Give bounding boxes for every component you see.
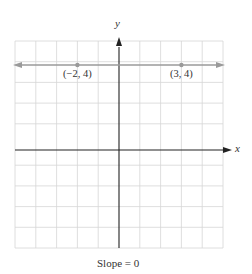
y-axis-label: y bbox=[115, 17, 120, 29]
x-axis bbox=[15, 147, 232, 153]
line-left-arrow-icon bbox=[13, 62, 22, 68]
x-axis-arrow-icon bbox=[223, 147, 232, 153]
y-axis bbox=[116, 37, 122, 248]
x-axis-label: x bbox=[235, 142, 240, 154]
line-right-arrow-icon bbox=[216, 62, 225, 68]
coordinate-plane bbox=[0, 0, 252, 274]
slope-caption: Slope = 0 bbox=[97, 257, 139, 269]
point-neg2-4 bbox=[75, 63, 79, 67]
point-label-3-4: (3, 4) bbox=[170, 68, 193, 79]
point-label-neg2-4: (−2, 4) bbox=[63, 68, 92, 79]
y-axis-arrow-icon bbox=[116, 37, 122, 46]
point-3-4 bbox=[179, 63, 183, 67]
